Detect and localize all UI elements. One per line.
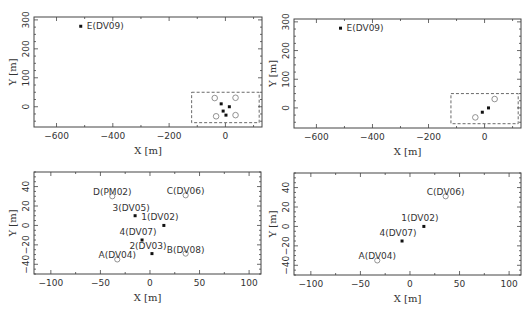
antenna-marker-filled <box>228 105 231 108</box>
x-axis-label: X [m] <box>394 293 422 304</box>
figure: −600−400−20000100200300X [m]Y [m]E(DV09)… <box>0 0 528 311</box>
antenna-marker-filled <box>481 111 484 114</box>
scatter-plot-1: −600−400−20000100200300X [m]Y [m]E(DV09) <box>7 11 262 156</box>
y-tick-label: −40 <box>281 256 291 275</box>
x-axis-label: X [m] <box>134 292 162 303</box>
plot-frame <box>294 19 521 128</box>
x-tick-label: 0 <box>407 279 413 289</box>
x-tick-label: −200 <box>416 132 441 142</box>
zoom-region-box <box>451 94 518 124</box>
antenna-marker-open <box>492 96 498 102</box>
y-tick-label: 0 <box>281 105 291 111</box>
antenna-marker-filled <box>79 25 82 28</box>
plot-frame <box>294 173 521 275</box>
antenna-marker-filled <box>401 240 404 243</box>
antenna-marker-filled <box>220 102 223 105</box>
y-tick-label: 0 <box>21 104 31 110</box>
antenna-label: D(PM02) <box>93 187 132 197</box>
antenna-label: 2(DV03) <box>129 241 166 251</box>
y-tick-label: 40 <box>21 181 31 193</box>
x-tick-label: 0 <box>223 131 229 141</box>
antenna-label: C(DV06) <box>427 187 465 197</box>
antenna-label: 1(DV02) <box>401 213 438 223</box>
x-tick-label: −50 <box>91 278 110 288</box>
x-tick-label: −400 <box>360 132 385 142</box>
antenna-label: B(DV08) <box>167 245 205 255</box>
antenna-marker-filled <box>339 27 342 30</box>
x-tick-label: −600 <box>44 131 69 141</box>
figure-canvas: −600−400−20000100200300X [m]Y [m]E(DV09)… <box>0 0 528 311</box>
x-tick-label: 100 <box>241 278 258 288</box>
y-tick-label: 20 <box>281 201 291 213</box>
y-tick-label: 200 <box>281 42 291 59</box>
x-tick-label: −200 <box>157 131 182 141</box>
y-tick-label: 100 <box>21 69 31 86</box>
x-axis-label: X [m] <box>134 145 162 156</box>
y-axis-label: Y [m] <box>7 209 18 237</box>
y-axis-label: Y [m] <box>7 58 18 86</box>
y-tick-label: −40 <box>21 255 31 274</box>
antenna-marker-filled <box>224 114 227 117</box>
y-tick-label: 0 <box>281 223 291 229</box>
antenna-marker-filled <box>141 239 144 242</box>
y-axis-label: Y [m] <box>267 60 278 88</box>
antenna-label: 1(DV02) <box>141 212 178 222</box>
y-tick-label: 300 <box>21 11 31 28</box>
antenna-label: C(DV06) <box>167 186 205 196</box>
antenna-marker-open <box>233 112 239 118</box>
x-tick-label: 0 <box>482 132 488 142</box>
x-tick-label: 100 <box>501 279 518 289</box>
antenna-marker-filled <box>162 224 165 227</box>
x-tick-label: −50 <box>351 279 370 289</box>
antenna-label: 4(DV07) <box>119 227 156 237</box>
antenna-marker-filled <box>487 106 490 109</box>
y-tick-label: 200 <box>21 40 31 57</box>
antenna-label: A(DV04) <box>358 251 396 261</box>
antenna-marker-filled <box>134 214 137 217</box>
antenna-label: A(DV04) <box>98 250 136 260</box>
antenna-marker-filled <box>150 252 153 255</box>
antenna-label: 3(DV05) <box>113 203 150 213</box>
y-tick-label: 20 <box>21 200 31 212</box>
plot-frame <box>34 17 262 127</box>
x-tick-label: −400 <box>100 131 125 141</box>
y-tick-label: 0 <box>21 222 31 228</box>
plot-frame <box>34 172 261 274</box>
antenna-label: 4(DV07) <box>379 228 416 238</box>
scatter-plot-3: −100−50050100−40−2002040X [m]Y [m]1(DV02… <box>7 172 261 303</box>
scatter-plot-2: −600−400−20000100200300X [m]Y [m]E(DV09) <box>267 13 521 157</box>
x-axis-label: X [m] <box>394 146 422 157</box>
x-tick-label: 50 <box>194 278 206 288</box>
x-tick-label: −100 <box>38 278 63 288</box>
y-axis-label: Y [m] <box>267 210 278 238</box>
antenna-marker-open <box>473 115 479 121</box>
antenna-label: E(DV09) <box>347 23 384 33</box>
zoom-region-box <box>192 92 260 122</box>
scatter-plot-4: −100−50050100−40−2002040X [m]Y [m]1(DV02… <box>267 173 521 304</box>
x-tick-label: −100 <box>298 279 323 289</box>
x-tick-label: 0 <box>147 278 153 288</box>
antenna-label: E(DV09) <box>87 21 124 31</box>
y-tick-label: −20 <box>281 236 291 255</box>
y-tick-label: −20 <box>21 235 31 254</box>
antenna-marker-filled <box>222 110 225 113</box>
antenna-marker-open <box>212 95 218 101</box>
x-tick-label: −600 <box>304 132 329 142</box>
y-tick-label: 100 <box>281 70 291 87</box>
antenna-marker-open <box>213 113 219 119</box>
antenna-marker-open <box>233 95 239 101</box>
y-tick-label: 40 <box>281 182 291 194</box>
y-tick-label: 300 <box>281 13 291 30</box>
x-tick-label: 50 <box>454 279 466 289</box>
antenna-marker-filled <box>422 225 425 228</box>
